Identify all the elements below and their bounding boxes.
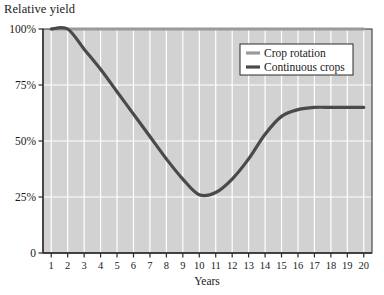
y-axis: 025%50%75%100%: [9, 23, 43, 259]
x-tick-label: 5: [114, 260, 119, 271]
y-tick-label: 50%: [15, 135, 37, 147]
x-tick-label: 19: [342, 260, 353, 271]
x-tick-label: 13: [243, 260, 254, 271]
x-tick-label: 18: [326, 260, 337, 271]
x-tick-label: 3: [82, 260, 87, 271]
x-axis: 1234567891011121314151617181920: [43, 253, 372, 271]
x-tick-label: 11: [211, 260, 221, 271]
x-tick-label: 9: [180, 260, 185, 271]
x-tick-label: 20: [359, 260, 370, 271]
chart-legend[interactable]: Crop rotationContinuous crops: [240, 44, 353, 75]
chart-plot: 025%50%75%100% 1234567891011121314151617…: [0, 0, 384, 295]
y-tick-label: 100%: [9, 23, 36, 35]
x-tick-label: 4: [98, 260, 104, 271]
y-tick-label: 0: [30, 247, 36, 259]
x-tick-label: 12: [227, 260, 238, 271]
x-tick-label: 2: [65, 260, 70, 271]
x-tick-label: 17: [309, 260, 320, 271]
y-tick-label: 75%: [15, 79, 37, 91]
legend-label: Continuous crops: [264, 61, 345, 74]
x-axis-title: Years: [194, 275, 220, 287]
x-tick-label: 1: [49, 260, 54, 271]
x-tick-label: 14: [260, 260, 271, 271]
x-tick-label: 6: [131, 260, 136, 271]
x-tick-label: 7: [147, 260, 152, 271]
x-tick-label: 10: [194, 260, 205, 271]
chart-container: Relative yield 025%50%75%100% 1234567891…: [0, 0, 384, 295]
x-tick-label: 8: [164, 260, 169, 271]
x-tick-label: 15: [276, 260, 287, 271]
y-tick-label: 25%: [15, 191, 37, 203]
legend-label: Crop rotation: [264, 47, 326, 60]
x-tick-label: 16: [293, 260, 304, 271]
